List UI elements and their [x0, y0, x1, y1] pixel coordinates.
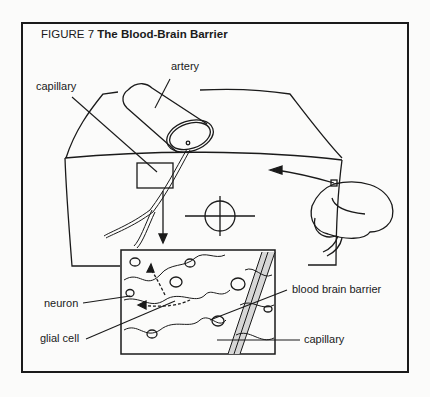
artery-leader [155, 79, 170, 108]
brain-icon [311, 182, 393, 256]
label-neuron: neuron [44, 297, 78, 309]
tissue-block [65, 89, 342, 266]
label-capillary-top: capillary [36, 80, 76, 92]
label-blood-brain-barrier: blood brain barrier [292, 283, 381, 295]
location-arrow [276, 170, 334, 183]
label-glial-cell: glial cell [40, 332, 79, 344]
label-capillary-bottom: capillary [304, 333, 344, 345]
artery-tube [123, 84, 217, 158]
zoom-region-box [137, 163, 173, 188]
crosshair-symbol [185, 196, 255, 236]
label-artery: artery [171, 60, 199, 72]
capillary-top-leader [72, 97, 157, 172]
magnified-tissue [121, 250, 275, 354]
